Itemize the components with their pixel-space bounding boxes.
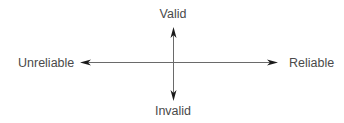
axis-label-valid: Valid xyxy=(160,7,187,21)
axis-label-reliable: Reliable xyxy=(289,56,334,70)
axis-label-invalid: Invalid xyxy=(155,104,191,118)
axis-label-unreliable: Unreliable xyxy=(18,56,74,70)
validity-reliability-diagram: Valid Invalid Unreliable Reliable xyxy=(0,0,344,123)
